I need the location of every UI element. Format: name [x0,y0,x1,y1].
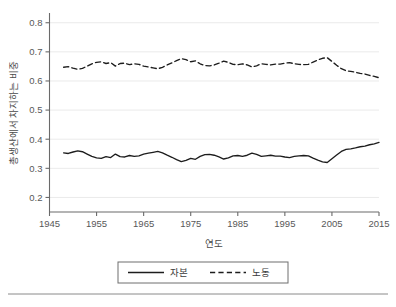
x-tick-label: 1995 [274,218,295,229]
y-tick-label: 0.8 [29,17,42,28]
x-tick-label: 2015 [368,218,389,229]
y-tick-label: 0.2 [29,192,42,203]
chart-background [0,0,396,307]
line-chart: 0.20.30.40.50.60.70.8 194519551965197519… [0,0,396,307]
x-axis-title: 연도 [205,238,223,249]
y-tick-label: 0.3 [29,163,42,174]
x-tick-label: 1945 [39,218,60,229]
x-tick-label: 1965 [133,218,154,229]
y-tick-label: 0.7 [29,46,42,57]
x-tick-label: 1975 [180,218,201,229]
y-tick-label: 0.6 [29,75,42,86]
x-tick-label: 1985 [227,218,248,229]
y-axis-title: 총생산에서 차지하는 비중 [8,61,19,165]
y-tick-label: 0.5 [29,104,42,115]
legend-label-labor: 노동 [252,267,270,278]
x-tick-label: 2005 [321,218,342,229]
legend-label-capital: 자본 [170,267,188,278]
x-tick-label: 1955 [86,218,107,229]
y-tick-label: 0.4 [29,134,42,145]
